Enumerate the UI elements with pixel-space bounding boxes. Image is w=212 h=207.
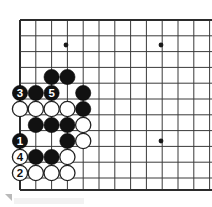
move-number-label: 5	[48, 87, 55, 99]
white-stone-disc	[60, 165, 75, 180]
black-stone-disc	[28, 117, 43, 132]
move-number-label: 3	[17, 87, 23, 99]
stone-black[interactable]	[44, 69, 59, 84]
white-stone-disc	[28, 165, 43, 180]
go-board-canvas[interactable]: 35142	[0, 0, 212, 207]
stone-white[interactable]	[76, 133, 91, 148]
numbered-stone[interactable]: 4	[12, 149, 27, 164]
white-stone-disc	[28, 101, 43, 116]
star-point	[159, 139, 164, 144]
black-stone-disc	[44, 69, 59, 84]
stone-black[interactable]	[28, 149, 43, 164]
star-point	[159, 43, 164, 48]
black-stone-disc	[60, 133, 75, 148]
stone-white[interactable]	[44, 165, 59, 180]
numbered-stone[interactable]: 2	[12, 165, 27, 180]
black-stone-disc	[60, 117, 75, 132]
go-board-diagram: 35142	[0, 0, 212, 207]
black-stone-disc	[44, 117, 59, 132]
stone-black[interactable]	[44, 149, 59, 164]
white-stone-disc	[60, 149, 75, 164]
stone-white[interactable]	[60, 149, 75, 164]
stone-black[interactable]	[28, 117, 43, 132]
move-number-label: 1	[17, 135, 24, 147]
stone-black[interactable]	[44, 117, 59, 132]
stone-white[interactable]	[60, 165, 75, 180]
stone-black[interactable]	[76, 85, 91, 100]
bottom-strip	[14, 198, 84, 204]
stone-black[interactable]	[60, 69, 75, 84]
stone-white[interactable]	[12, 101, 27, 116]
numbered-stone[interactable]: 5	[44, 85, 59, 100]
stone-black[interactable]	[76, 101, 91, 116]
white-stone-disc	[60, 101, 75, 116]
stone-black[interactable]	[28, 85, 43, 100]
stone-black[interactable]	[60, 117, 75, 132]
move-number-label: 2	[17, 167, 23, 179]
black-stone-disc	[76, 101, 91, 116]
black-stone-disc	[28, 149, 43, 164]
black-stone-disc	[76, 85, 91, 100]
black-stone-disc	[28, 85, 43, 100]
stone-white[interactable]	[28, 165, 43, 180]
white-stone-disc	[44, 165, 59, 180]
white-stone-disc	[44, 101, 59, 116]
move-number-label: 4	[17, 151, 24, 163]
white-stone-disc	[76, 133, 91, 148]
numbered-stone[interactable]: 3	[12, 85, 27, 100]
black-stone-disc	[44, 149, 59, 164]
star-point	[64, 43, 69, 48]
white-stone-disc	[76, 117, 91, 132]
black-stone-disc	[60, 69, 75, 84]
white-stone-disc	[12, 101, 27, 116]
stone-white[interactable]	[28, 101, 43, 116]
numbered-stone[interactable]: 1	[12, 133, 27, 148]
stone-white[interactable]	[44, 101, 59, 116]
stone-white[interactable]	[60, 101, 75, 116]
corner-marker-icon	[5, 194, 12, 201]
stone-white[interactable]	[76, 117, 91, 132]
stone-black[interactable]	[60, 133, 75, 148]
